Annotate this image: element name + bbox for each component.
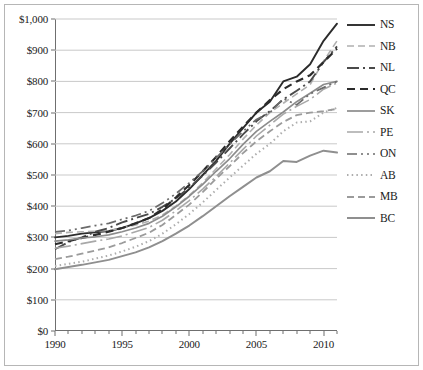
legend-line-swatch: [346, 40, 376, 52]
x-axis-minor-tick: [81, 331, 82, 334]
y-axis-label: $600: [27, 138, 48, 149]
x-axis-label: 2000: [179, 339, 200, 350]
legend-label: NS: [380, 19, 394, 31]
legend-line-swatch: [346, 83, 376, 95]
x-axis-minor-tick: [283, 331, 284, 334]
x-axis-label: 1990: [44, 339, 65, 350]
y-axis-label: $900: [27, 45, 48, 56]
y-axis-tick: [51, 268, 55, 269]
legend-line-swatch: [346, 191, 376, 203]
x-axis-minor-tick: [243, 331, 244, 334]
legend-label: BC: [380, 213, 395, 225]
legend-item-qc[interactable]: QC: [346, 79, 412, 101]
series-line-pe: [55, 83, 337, 248]
legend-line-swatch: [346, 105, 376, 117]
legend-label: SK: [380, 105, 394, 117]
x-axis-minor-tick: [175, 331, 176, 334]
legend-label: ON: [380, 148, 396, 160]
legend-item-mb[interactable]: MB: [346, 186, 412, 208]
x-axis-minor-tick: [135, 331, 136, 334]
legend-item-ab[interactable]: AB: [346, 165, 412, 187]
y-axis-label: $300: [27, 232, 48, 243]
x-axis-minor-tick: [337, 331, 338, 334]
legend-item-sk[interactable]: SK: [346, 100, 412, 122]
legend-label: PE: [380, 127, 393, 139]
x-axis-tick: [189, 331, 190, 336]
x-axis-tick: [323, 331, 324, 336]
legend-line-swatch: [346, 126, 376, 138]
x-axis-minor-tick: [269, 331, 270, 334]
x-axis-label: 2005: [246, 339, 267, 350]
y-axis-tick: [51, 299, 55, 300]
y-axis-tick: [51, 175, 55, 176]
y-axis-label: $0: [37, 326, 48, 337]
chart-legend: NSNBNLQCSKPEONABMBBC: [346, 14, 412, 229]
series-lines: [55, 19, 337, 331]
plot-wrapper: $0$100$200$300$400$500$600$700$800$900$1…: [55, 19, 337, 331]
y-axis-tick: [51, 237, 55, 238]
x-axis-minor-tick: [216, 331, 217, 334]
legend-item-bc[interactable]: BC: [346, 208, 412, 230]
legend-item-pe[interactable]: PE: [346, 122, 412, 144]
x-axis-label: 1995: [112, 339, 133, 350]
legend-line-swatch: [346, 212, 376, 224]
x-axis-minor-tick: [229, 331, 230, 334]
x-axis-minor-tick: [108, 331, 109, 334]
y-axis-label: $100: [27, 294, 48, 305]
x-axis-minor-tick: [95, 331, 96, 334]
series-line-nb: [55, 41, 337, 234]
legend-item-nb[interactable]: NB: [346, 36, 412, 58]
y-axis-label: $400: [27, 201, 48, 212]
legend-item-ns[interactable]: NS: [346, 14, 412, 36]
x-axis-minor-tick: [162, 331, 163, 334]
y-axis-tick: [51, 81, 55, 82]
x-axis-minor-tick: [68, 331, 69, 334]
y-axis-label: $700: [27, 107, 48, 118]
legend-line-swatch: [346, 62, 376, 74]
series-line-bc: [55, 151, 337, 270]
x-axis-minor-tick: [149, 331, 150, 334]
x-axis-minor-tick: [310, 331, 311, 334]
legend-line-swatch: [346, 169, 376, 181]
legend-label: AB: [380, 170, 396, 182]
legend-label: MB: [380, 191, 398, 203]
x-axis-tick: [55, 331, 56, 336]
x-axis-tick: [256, 331, 257, 336]
series-line-ns: [55, 24, 337, 238]
legend-line-swatch: [346, 148, 376, 160]
x-axis-minor-tick: [296, 331, 297, 334]
legend-line-swatch: [346, 19, 376, 31]
y-axis-tick: [51, 50, 55, 51]
legend-label: NL: [380, 62, 395, 74]
y-axis-tick: [51, 143, 55, 144]
y-axis-tick: [51, 112, 55, 113]
legend-item-on[interactable]: ON: [346, 143, 412, 165]
x-axis-label: 2010: [313, 339, 334, 350]
legend-label: NB: [380, 41, 396, 53]
y-axis-label: $200: [27, 263, 48, 274]
y-axis-tick: [51, 206, 55, 207]
legend-label: QC: [380, 84, 396, 96]
y-axis-tick: [51, 19, 55, 20]
y-axis-label: $800: [27, 76, 48, 87]
y-axis-label: $500: [27, 170, 48, 181]
x-axis-minor-tick: [202, 331, 203, 334]
chart-figure: $0$100$200$300$400$500$600$700$800$900$1…: [0, 0, 423, 370]
x-axis-tick: [122, 331, 123, 336]
legend-item-nl[interactable]: NL: [346, 57, 412, 79]
y-axis-label: $1,000: [19, 14, 48, 25]
series-line-ab: [55, 108, 337, 266]
